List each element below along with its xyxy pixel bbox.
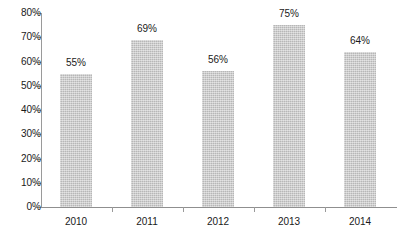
x-category-label-2014: 2014: [336, 216, 384, 227]
x-category-label-2010: 2010: [52, 216, 100, 227]
x-tick-mark: [325, 207, 326, 212]
y-tick-label: 10%: [8, 178, 41, 188]
bar-value-label-2010: 55%: [52, 58, 100, 68]
x-tick-mark: [183, 207, 184, 212]
x-category-label-2013: 2013: [265, 216, 313, 227]
bar-2010: [60, 74, 92, 207]
bar-2011: [131, 40, 163, 207]
x-category-label-2011: 2011: [123, 216, 171, 227]
y-tick-label: 40%: [8, 105, 41, 115]
bar-2013: [273, 25, 305, 207]
x-tick-mark: [112, 207, 113, 212]
y-tick-label: 80%: [8, 8, 41, 18]
x-tick-mark: [254, 207, 255, 212]
x-axis-line: [41, 207, 397, 208]
y-tick-label: 50%: [8, 81, 41, 91]
x-category-label-2012: 2012: [194, 216, 242, 227]
y-tick-label: 70%: [8, 32, 41, 42]
bar-2012: [202, 71, 234, 207]
bar-2014: [344, 52, 376, 207]
y-tick-label: 60%: [8, 57, 41, 67]
y-axis-line: [41, 13, 42, 207]
bar-value-label-2011: 69%: [123, 24, 171, 34]
bar-value-label-2012: 56%: [194, 55, 242, 65]
y-tick-label: 0%: [8, 202, 41, 212]
y-tick-label: 30%: [8, 129, 41, 139]
y-tick-label: 20%: [8, 154, 41, 164]
bar-value-label-2013: 75%: [265, 9, 313, 19]
bar-chart: 0% 10% 20% 30% 40% 50% 60% 70% 80%: [0, 0, 405, 239]
bar-value-label-2014: 64%: [336, 36, 384, 46]
